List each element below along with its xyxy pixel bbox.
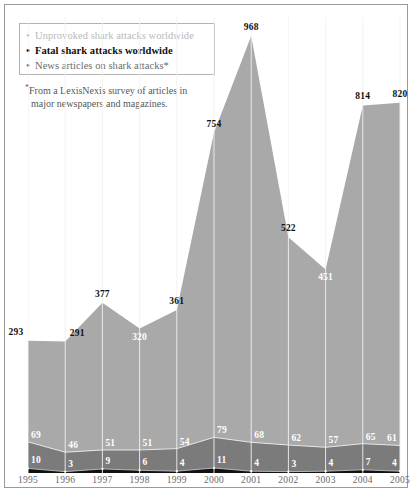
area-chart-svg [28, 17, 401, 473]
x-tick-1999: 1999 [167, 475, 187, 485]
x-tick-2000: 2000 [204, 475, 224, 485]
x-tick-1995: 1995 [18, 475, 38, 485]
data-label-unprovoked-1995: 69 [31, 430, 41, 440]
data-label-news-2004: 814 [355, 91, 370, 101]
data-label-fatal-2000: 11 [217, 455, 226, 465]
chart-frame: • Unprovoked shark attacks worldwide • F… [4, 4, 408, 488]
data-label-fatal-1996: 3 [68, 459, 73, 469]
x-tick-2005: 2005 [390, 475, 410, 485]
data-label-unprovoked-1997: 51 [105, 438, 115, 448]
data-label-unprovoked-2000: 79 [217, 425, 227, 435]
data-label-fatal-1995: 10 [31, 455, 41, 465]
x-tick-2004: 2004 [353, 475, 373, 485]
data-label-news-1999: 361 [169, 296, 184, 306]
data-label-unprovoked-2002: 62 [291, 433, 301, 443]
data-label-news-2000: 754 [207, 119, 222, 129]
x-tick-1997: 1997 [92, 475, 112, 485]
data-label-unprovoked-2003: 57 [329, 435, 339, 445]
data-label-unprovoked-2004: 65 [366, 432, 376, 442]
data-label-news-1997: 377 [95, 289, 110, 299]
x-tick-2003: 2003 [315, 475, 335, 485]
data-label-unprovoked-1996: 46 [68, 440, 78, 450]
data-label-fatal-2001: 4 [254, 458, 259, 468]
data-label-fatal-1999: 4 [180, 458, 185, 468]
data-label-news-2002: 522 [281, 223, 296, 233]
data-label-news-1995: 293 [9, 327, 24, 337]
data-label-news-2001: 968 [244, 22, 259, 32]
chart-plot-area [28, 17, 401, 473]
data-label-unprovoked-2005: 61 [387, 433, 397, 443]
x-tick-1998: 1998 [129, 475, 149, 485]
data-label-fatal-2005: 4 [392, 458, 397, 468]
x-tick-2002: 2002 [278, 475, 298, 485]
data-label-fatal-2004: 7 [366, 457, 371, 467]
data-label-fatal-1997: 9 [105, 456, 110, 466]
data-label-news-1998: 320 [132, 332, 147, 342]
data-label-unprovoked-1999: 54 [180, 437, 190, 447]
x-axis-tick-labels: 1995199619971998199920002001200220032004… [28, 475, 401, 491]
data-label-news-2003: 451 [318, 272, 333, 282]
data-label-fatal-1998: 6 [143, 457, 148, 467]
data-label-fatal-2002: 3 [291, 459, 296, 469]
data-label-unprovoked-1998: 51 [143, 438, 153, 448]
data-label-news-2005: 820 [393, 89, 408, 99]
data-label-unprovoked-2001: 68 [254, 430, 264, 440]
x-tick-1996: 1996 [55, 475, 75, 485]
data-label-fatal-2003: 4 [329, 458, 334, 468]
x-tick-2001: 2001 [241, 475, 261, 485]
data-label-news-1996: 291 [70, 328, 85, 338]
